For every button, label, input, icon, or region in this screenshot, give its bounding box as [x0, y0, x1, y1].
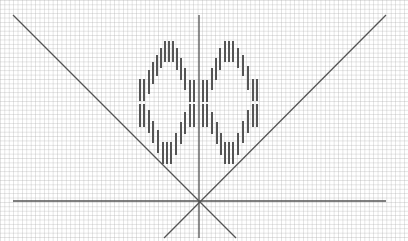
- dash-mark: [256, 104, 258, 127]
- dash-mark: [184, 68, 186, 90]
- dash-mark: [252, 79, 254, 101]
- dash-mark: [219, 48, 221, 70]
- dash-mark: [157, 130, 159, 153]
- dash-mark: [237, 133, 239, 155]
- dash-mark: [202, 80, 204, 102]
- dash-mark: [247, 66, 249, 90]
- dash-mark: [228, 142, 230, 164]
- dash-mark: [152, 62, 154, 84]
- dash-mark: [252, 104, 254, 127]
- dash-mark: [172, 41, 174, 62]
- dash-mark: [143, 104, 145, 127]
- dash-mark: [156, 55, 158, 76]
- dash-mark: [148, 110, 150, 133]
- right-diagonal-line: [164, 15, 386, 238]
- dash-mark: [189, 104, 191, 127]
- dash-mark: [193, 104, 195, 127]
- dash-mark: [211, 68, 213, 90]
- dash-mark: [206, 80, 208, 102]
- dash-mark: [162, 142, 164, 164]
- dash-mark: [168, 41, 170, 62]
- dash-mark: [176, 48, 178, 70]
- dash-mark: [220, 133, 222, 155]
- dash-mark: [224, 142, 226, 164]
- dash-mark: [228, 41, 230, 62]
- dash-mark: [237, 48, 239, 68]
- line-drawing: [0, 0, 408, 241]
- dash-mark: [206, 104, 208, 127]
- dash-mark: [193, 80, 195, 102]
- dash-mark: [180, 58, 182, 80]
- dash-mark: [242, 55, 244, 76]
- dash-mark: [232, 41, 234, 62]
- graph-paper-canvas: [0, 0, 408, 241]
- dash-mark: [224, 41, 226, 62]
- dash-mark: [180, 122, 182, 144]
- dash-mark: [170, 142, 172, 164]
- dash-mark: [256, 79, 258, 101]
- dash-mark: [232, 142, 234, 164]
- dash-mark: [247, 110, 249, 133]
- dash-mark: [166, 142, 168, 164]
- dash-mark: [202, 104, 204, 127]
- dash-mark: [164, 41, 166, 62]
- dash-mark: [216, 122, 218, 144]
- dash-mark: [175, 133, 177, 155]
- dash-mark: [152, 121, 154, 143]
- dash-mark: [148, 70, 150, 94]
- dash-mark: [139, 79, 141, 101]
- dash-mark: [242, 121, 244, 143]
- dash-mark: [139, 104, 141, 127]
- dash-mark: [211, 112, 213, 134]
- dash-mark: [184, 112, 186, 134]
- dash-mark: [143, 79, 145, 101]
- dash-mark: [215, 58, 217, 80]
- dash-mark: [189, 80, 191, 102]
- dash-mark: [160, 48, 162, 68]
